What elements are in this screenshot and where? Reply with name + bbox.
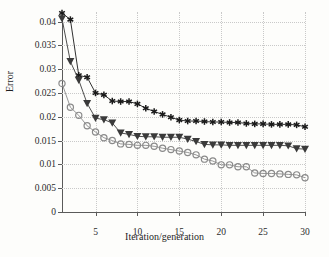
series-triangle-marker (100, 116, 108, 123)
x-tick (179, 212, 180, 216)
series-star-line (62, 13, 305, 127)
series-star (59, 10, 308, 130)
series-triangle-marker (75, 77, 83, 84)
series-star-marker (68, 16, 74, 23)
y-tick-label: 0.04 (39, 17, 62, 27)
series-triangle-marker (184, 136, 192, 143)
y-tick-label: 0.025 (35, 88, 62, 98)
y-tick-label: 0.005 (35, 183, 62, 193)
series-triangle-marker (66, 58, 74, 65)
data-series-layer (62, 12, 305, 212)
series-triangle-line (62, 19, 305, 149)
gridline-vertical (305, 12, 306, 212)
y-tick-label: 0.015 (35, 136, 62, 146)
y-tick-label: 0.02 (39, 112, 62, 122)
chart-figure: 00.0050.010.0150.020.0250.030.0350.04 51… (0, 0, 329, 257)
series-star-marker (143, 105, 149, 112)
y-tick-label: 0.035 (35, 40, 62, 50)
x-tick (96, 212, 97, 216)
series-triangle-marker (83, 100, 91, 107)
y-tick-label: 0.01 (39, 159, 62, 169)
plot-area: 00.0050.010.0150.020.0250.030.0350.04 51… (62, 12, 305, 212)
x-tick (305, 212, 306, 216)
y-tick-label: 0.03 (39, 64, 62, 74)
x-tick (137, 212, 138, 216)
series-star-marker (168, 114, 174, 121)
y-tick-label: 0 (51, 207, 62, 217)
series-circle (59, 80, 308, 180)
series-star-marker (160, 111, 166, 118)
x-axis-line (62, 212, 306, 213)
y-axis-title: Error (4, 71, 15, 92)
series-star-marker (59, 10, 65, 17)
series-circle-marker (59, 80, 65, 86)
series-triangle-marker (192, 138, 200, 145)
x-axis-title: Iteration/generation (0, 231, 329, 242)
series-star-marker (151, 108, 157, 115)
series-star-marker (135, 101, 141, 108)
x-tick (221, 212, 222, 216)
x-tick (263, 212, 264, 216)
